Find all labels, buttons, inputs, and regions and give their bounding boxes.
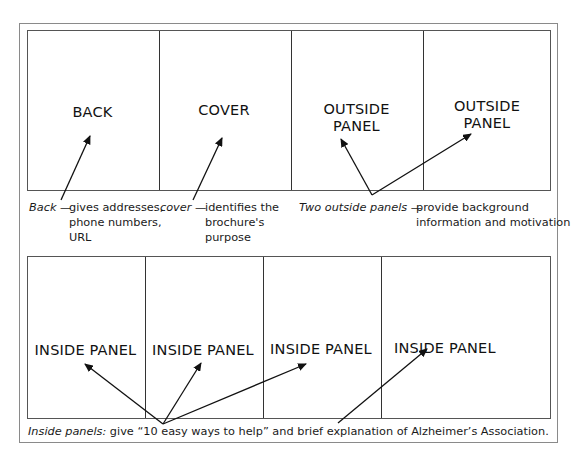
arrow-back [61, 136, 90, 200]
arrow-inside-2 [163, 363, 201, 424]
arrow-inside-1 [85, 364, 163, 424]
arrow-cover [193, 138, 222, 200]
arrows-layer [0, 0, 583, 466]
arrow-inside-3 [163, 364, 306, 424]
arrow-outside-2 [372, 134, 471, 195]
arrow-outside-1 [341, 139, 372, 195]
arrow-inside-4 [338, 349, 427, 423]
